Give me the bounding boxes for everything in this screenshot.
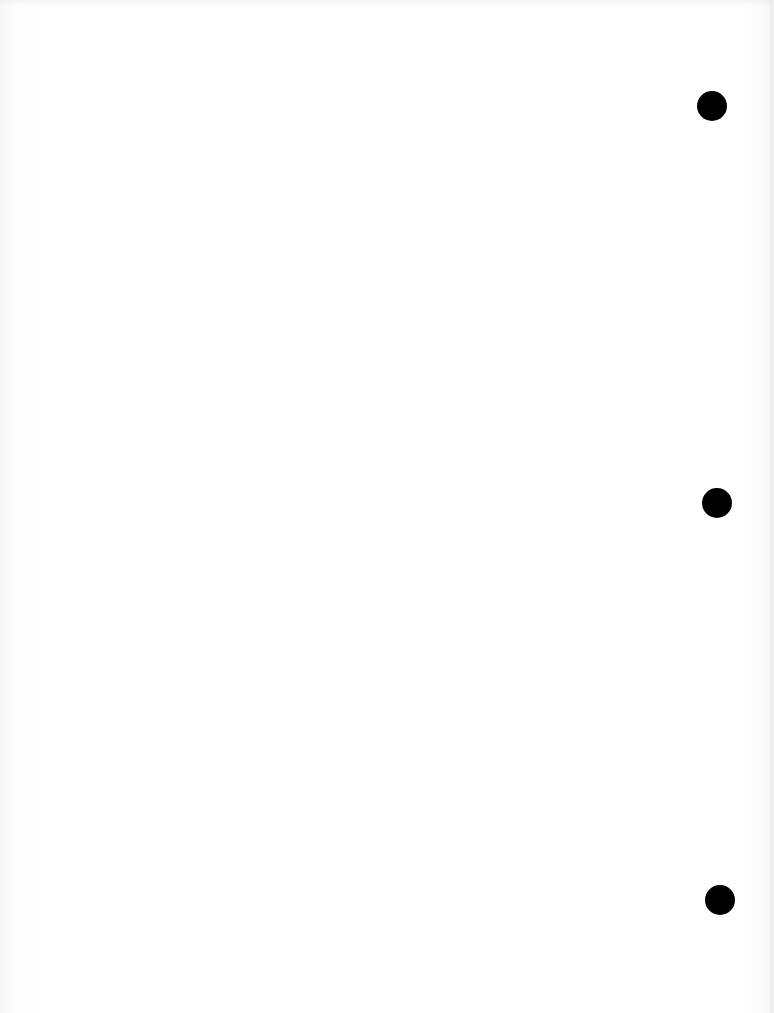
hole-punch-middle [702,488,732,518]
hole-punch-bottom [705,885,735,915]
bleed-through-text [0,0,774,6]
hole-punch-top [697,91,727,121]
page-edge-shadow [770,0,774,1013]
scanned-page [0,0,774,1013]
